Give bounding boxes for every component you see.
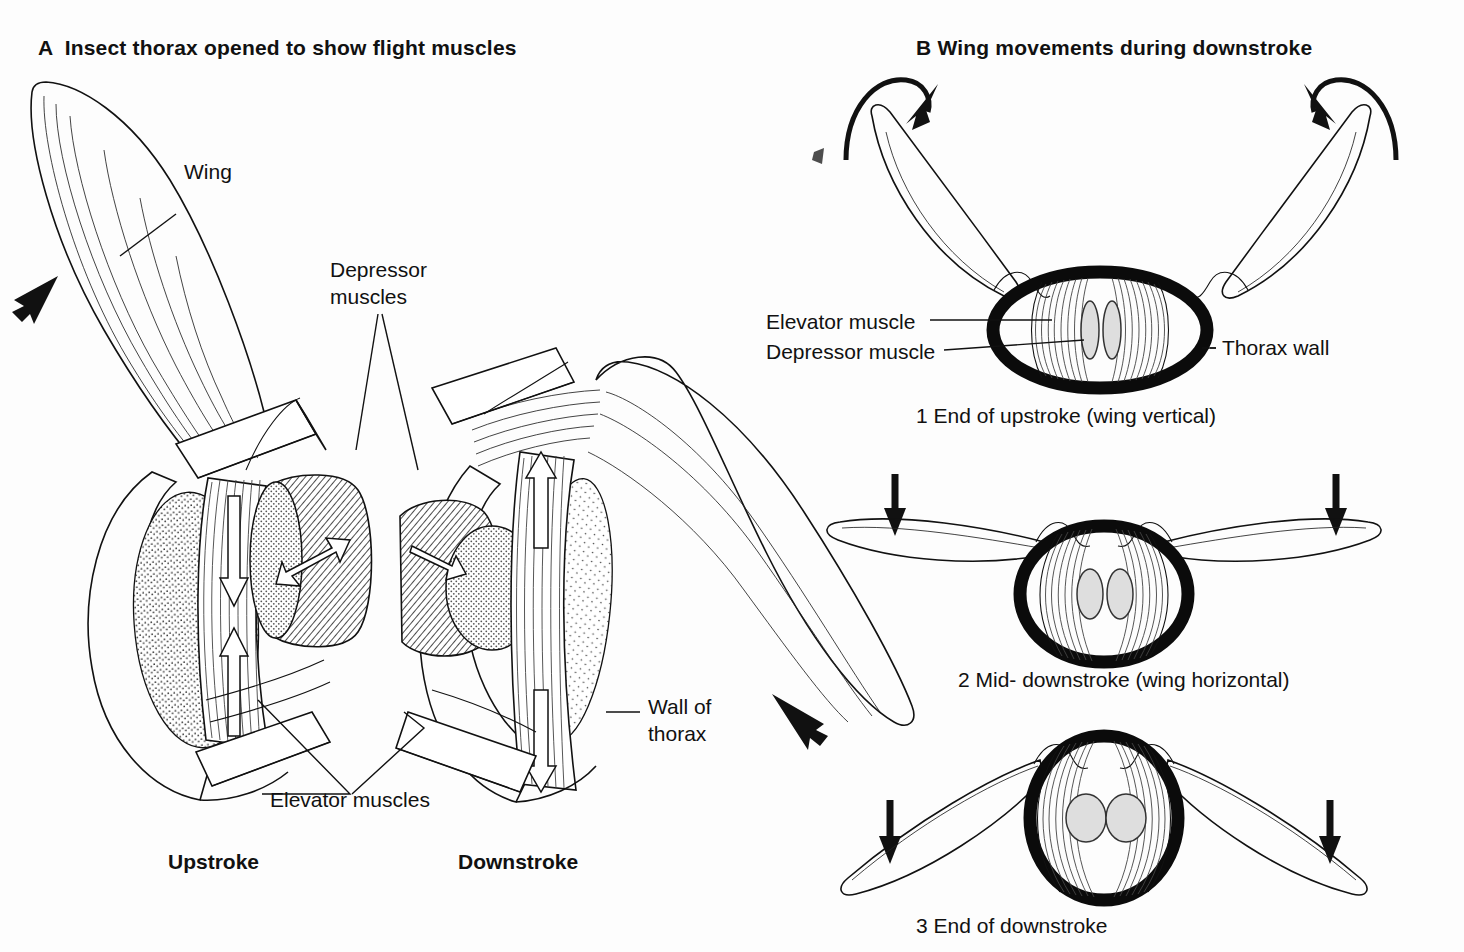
upstroke-depressor-muscle	[250, 475, 372, 647]
leader-depressor-muscle	[944, 340, 1084, 350]
stage1-elevator-fibers	[1036, 278, 1165, 382]
stage2-elevator-fibers	[1046, 529, 1163, 661]
leader-wing	[120, 214, 176, 256]
label-wall-of-thorax-line2: thorax	[648, 722, 706, 746]
downstroke-wing	[588, 357, 914, 725]
upstroke-tergum-plate	[176, 400, 326, 478]
stage2-down-arrow-left	[884, 474, 906, 536]
label-wall-of-thorax-line1: Wall of	[648, 695, 711, 719]
stage2-depressor-right	[1107, 569, 1133, 619]
stage2-down-arrow-right	[1325, 474, 1347, 536]
upstroke-wing	[31, 82, 264, 470]
label-depressor-muscles-line1: Depressor	[330, 258, 427, 282]
stage2-wing-left	[827, 519, 1044, 561]
stage2-depressor-left	[1077, 569, 1103, 619]
stage1-thorax-wall	[993, 272, 1207, 388]
stage3-wing-right	[1164, 760, 1367, 895]
caption-stage-3: 3 End of downstroke	[916, 914, 1107, 938]
stage1-depressor-right	[1103, 301, 1121, 359]
label-wing: Wing	[184, 160, 232, 184]
panel-b-stage3	[841, 736, 1367, 900]
label-elevator-muscles: Elevator muscles	[270, 788, 430, 812]
caption-stage-2: 2 Mid- downstroke (wing horizontal)	[958, 668, 1289, 692]
stage3-depressor-right	[1106, 794, 1146, 842]
diagram-artwork	[0, 0, 1464, 952]
stage2-wing-right	[1164, 519, 1381, 561]
panel-a-upstroke-figure	[12, 82, 372, 800]
leader-depressor-left	[356, 314, 378, 450]
figure-canvas: A Insect thorax opened to show flight mu…	[0, 0, 1464, 952]
label-depressor-muscles-line2: muscles	[330, 285, 407, 309]
panel-a-title: A Insect thorax opened to show flight mu…	[38, 36, 517, 60]
label-depressor-muscle: Depressor muscle	[766, 340, 935, 364]
stage1-wing-left	[871, 105, 1019, 298]
upstroke-motion-arrow	[12, 276, 58, 324]
label-upstroke: Upstroke	[168, 850, 259, 874]
stage3-wing-left	[841, 760, 1044, 895]
stage3-down-arrow-left	[879, 800, 901, 864]
stage1-depressor-left	[1081, 301, 1099, 359]
label-downstroke: Downstroke	[458, 850, 578, 874]
caption-stage-1: 1 End of upstroke (wing vertical)	[916, 404, 1216, 428]
label-elevator-muscle: Elevator muscle	[766, 310, 915, 334]
downstroke-motion-arrow	[772, 694, 828, 750]
stage1-wing-right	[1222, 105, 1370, 298]
panel-b-stage2	[827, 474, 1381, 662]
label-thorax-wall: Thorax wall	[1222, 336, 1329, 360]
downstroke-tergum-plate	[432, 348, 574, 424]
stage3-depressor-left	[1066, 794, 1106, 842]
panel-b-title: B Wing movements during downstroke	[916, 36, 1312, 60]
leader-depressor-right	[382, 314, 418, 470]
